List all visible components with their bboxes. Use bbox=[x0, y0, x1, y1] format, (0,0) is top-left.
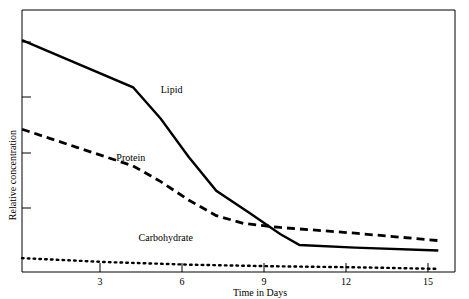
series-label-protein: Protein bbox=[116, 152, 145, 163]
chart-figure: 3 6 9 12 15 Time in Days Relative concen… bbox=[0, 0, 469, 299]
x-tick-label-6: 6 bbox=[180, 276, 185, 287]
x-axis-title: Time in Days bbox=[233, 287, 287, 298]
chart-background bbox=[0, 0, 469, 299]
series-label-lipid: Lipid bbox=[161, 84, 183, 95]
y-axis-title: Relative concentration bbox=[7, 130, 18, 220]
series-label-carbohydrate: Carbohydrate bbox=[139, 232, 194, 243]
x-tick-label-12: 12 bbox=[341, 276, 351, 287]
x-tick-label-9: 9 bbox=[262, 276, 267, 287]
line-chart-canvas: 3 6 9 12 15 Time in Days Relative concen… bbox=[0, 0, 469, 299]
x-tick-label-15: 15 bbox=[423, 276, 433, 287]
x-tick-label-3: 3 bbox=[98, 276, 103, 287]
